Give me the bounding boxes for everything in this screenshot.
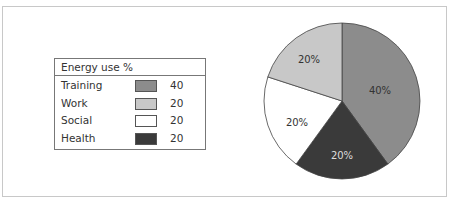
legend-swatch-training (135, 80, 157, 92)
legend-item-training: Training 40 (55, 77, 205, 94)
legend-label: Health (61, 130, 95, 147)
pie-label-work: 20% (298, 54, 320, 65)
legend-title: Energy use % (55, 59, 205, 76)
pie-label-social: 20% (286, 117, 308, 128)
pie-chart: 40% 20% 20% 20% (262, 21, 424, 183)
legend-item-health: Health 20 (55, 130, 205, 147)
legend-label: Training (61, 77, 102, 94)
pie-label-training: 40% (369, 85, 391, 96)
legend-swatch-health (135, 133, 157, 145)
legend-value: 20 (170, 95, 183, 112)
legend-label: Social (61, 112, 92, 129)
legend: Energy use % Training 40 Work 20 Social … (54, 58, 206, 150)
legend-value: 20 (170, 112, 183, 129)
legend-swatch-social (135, 115, 157, 127)
legend-item-work: Work 20 (55, 95, 205, 112)
pie-label-health: 20% (331, 150, 353, 161)
legend-item-social: Social 20 (55, 112, 205, 129)
legend-value: 40 (170, 77, 183, 94)
legend-swatch-work (135, 98, 157, 110)
legend-value: 20 (170, 130, 183, 147)
legend-label: Work (61, 95, 88, 112)
